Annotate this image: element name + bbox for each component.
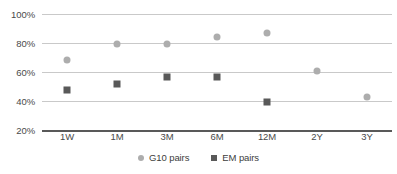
x-axis-tick-label: 1M	[111, 131, 124, 142]
plot-area	[42, 14, 392, 130]
data-point-marker	[164, 74, 171, 81]
x-axis-tick-label: 3M	[161, 131, 174, 142]
chart-container: 100%80%60%40%20% 1W1M3M6M12M2Y3Y G10 pai…	[0, 0, 397, 174]
legend-item[interactable]: G10 pairs	[138, 152, 189, 163]
y-axis-tick-label: 100%	[11, 9, 35, 20]
gridline	[42, 43, 392, 44]
legend-item-label: EM pairs	[222, 152, 259, 163]
gridline	[42, 14, 392, 15]
y-axis-tick-label: 40%	[16, 96, 35, 107]
gridline	[42, 101, 392, 102]
y-axis-tick-label: 80%	[16, 38, 35, 49]
x-axis-tick-label: 1W	[60, 131, 74, 142]
data-point-marker	[264, 99, 271, 106]
x-axis-labels: 1W1M3M6M12M2Y3Y	[42, 131, 392, 147]
square-marker-icon	[211, 155, 217, 161]
data-point-marker	[314, 68, 321, 75]
circle-marker-icon	[138, 155, 144, 161]
chart-legend: G10 pairsEM pairs	[0, 152, 397, 163]
data-point-marker	[114, 80, 121, 87]
data-point-marker	[114, 40, 121, 47]
x-axis-tick-label: 2Y	[311, 131, 322, 142]
data-point-marker	[214, 74, 221, 81]
x-axis-tick-label: 6M	[211, 131, 224, 142]
y-axis-tick-label: 60%	[16, 67, 35, 78]
data-point-marker	[364, 94, 371, 101]
x-axis-tick-label: 3Y	[361, 131, 372, 142]
data-point-marker	[64, 87, 71, 94]
data-point-marker	[164, 40, 171, 47]
legend-item-label: G10 pairs	[149, 152, 189, 163]
data-point-marker	[64, 57, 71, 64]
data-point-marker	[214, 34, 221, 41]
x-axis-tick-label: 12M	[258, 131, 276, 142]
y-axis-labels: 100%80%60%40%20%	[0, 0, 40, 174]
data-point-marker	[264, 29, 271, 36]
y-axis-tick-label: 20%	[16, 125, 35, 136]
legend-item[interactable]: EM pairs	[211, 152, 259, 163]
